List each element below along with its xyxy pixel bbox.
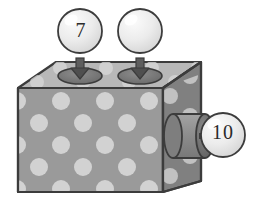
box-front-face bbox=[16, 86, 166, 196]
scene-canvas: 7 10 bbox=[0, 0, 270, 210]
input-bubble-2[interactable] bbox=[118, 9, 162, 53]
machine-illustration bbox=[0, 0, 270, 210]
output-bubble[interactable] bbox=[201, 113, 245, 157]
input-bubble-1[interactable] bbox=[58, 9, 102, 53]
